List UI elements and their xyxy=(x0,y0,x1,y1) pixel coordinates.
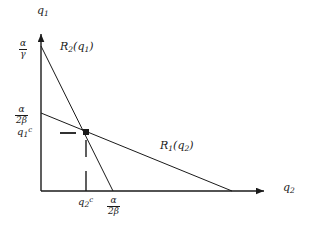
cournot-reaction-function-figure: q1 q2 α γ α 2β q1c q2c α 2β R2(q1) xyxy=(0,0,318,227)
plot-canvas xyxy=(0,0,318,227)
y-axis-label: q1 xyxy=(37,5,49,18)
x-axis-label: q2 xyxy=(283,182,295,195)
y-tick-label-q1-cournot: q1c xyxy=(17,127,32,139)
cournot-equilibrium-point xyxy=(83,129,89,135)
x-tick-label-q2-cournot: q2c xyxy=(78,197,93,209)
y-tick-label-alpha-over-2beta: α 2β xyxy=(15,105,28,126)
curve-label-r1: R1(q2) xyxy=(160,140,194,153)
curve-r1-line xyxy=(41,113,232,191)
y-tick-label-alpha-over-gamma: α γ xyxy=(19,39,27,60)
curve-label-r2: R2(q1) xyxy=(60,41,94,54)
curve-r2-line xyxy=(41,46,113,191)
x-tick-label-alpha-over-2beta: α 2β xyxy=(107,196,120,217)
